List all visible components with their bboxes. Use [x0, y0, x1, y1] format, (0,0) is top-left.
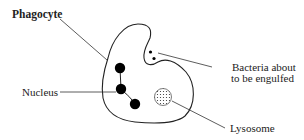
nucleus-label: Nucleus [22, 86, 58, 98]
phagocyte-label: Phagocyte [12, 8, 62, 20]
phagocyte-diagram: Phagocyte Bacteria about to be engulfed … [0, 0, 304, 140]
lysosome [155, 89, 172, 106]
bacteria-label-line2: to be engulfed [231, 72, 294, 84]
cell-membrane [102, 24, 193, 123]
phagocyte-leader [60, 19, 107, 60]
lysosome-label: Lysosome [230, 122, 275, 134]
bacteria [149, 50, 156, 60]
